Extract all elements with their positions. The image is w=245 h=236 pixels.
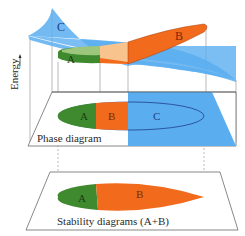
phase-region-a: A [80,110,88,122]
stability-region-a: A [78,192,86,204]
energy-axis-label: Energy [8,58,20,90]
phase-region-c: C [153,110,160,122]
phase-region-b: B [108,110,115,122]
phase-diagram-title: Phase diagram [37,132,102,144]
energy-phase-diagram: C A B Energy A B C Phase diagram A B Sta… [0,0,245,236]
energy-axis: Energy [8,54,22,90]
surface-b-label: B [175,29,183,43]
surface-a-label: A [67,53,75,65]
stability-region-b: B [136,188,143,200]
surface-c-label: C [57,20,65,34]
stability-diagram-title: Stability diagrams (A+B) [57,215,169,228]
